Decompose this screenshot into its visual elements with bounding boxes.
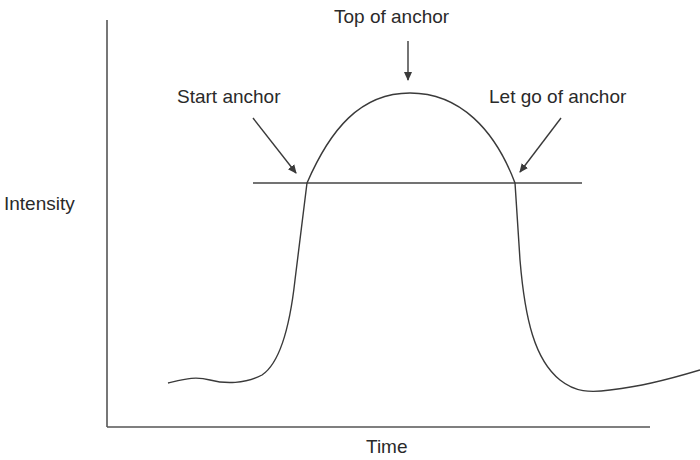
letgo-anchor-arrow	[520, 118, 561, 172]
top-anchor-label: Top of anchor	[334, 6, 449, 28]
start-anchor-arrow	[253, 118, 296, 173]
y-axis-label: Intensity	[4, 193, 75, 215]
x-axis-label: Time	[366, 436, 408, 458]
intensity-curve	[168, 93, 700, 391]
letgo-anchor-label: Let go of anchor	[489, 86, 626, 108]
diagram-canvas	[0, 0, 700, 460]
start-anchor-label: Start anchor	[177, 86, 281, 108]
